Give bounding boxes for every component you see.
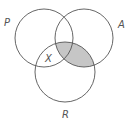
venn-diagram: P A R X [0,0,135,131]
circle-p [15,9,73,67]
label-region-x: X [44,53,53,64]
label-r: R [62,109,69,120]
label-a: A [117,19,125,30]
label-p: P [4,17,11,28]
